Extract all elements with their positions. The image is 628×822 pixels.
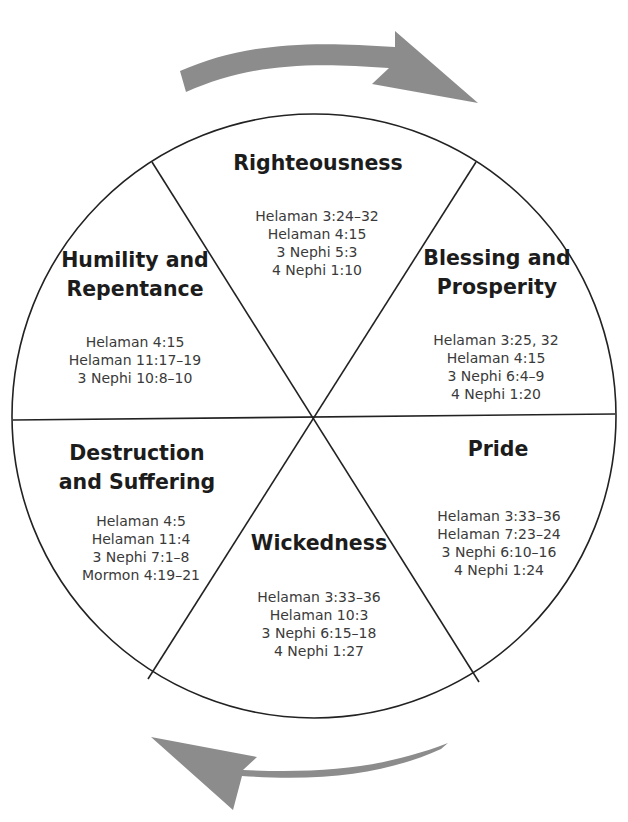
scripture-ref: Helaman 4:15 [268, 226, 367, 242]
segment-pride: Pride Helaman 3:33–36 Helaman 7:23–24 3 … [437, 437, 560, 578]
scripture-ref: Helaman 11:17–19 [69, 352, 201, 368]
scripture-ref: Helaman 4:5 [96, 513, 186, 529]
scripture-ref: Helaman 3:24–32 [255, 208, 378, 224]
segment-blessing-and-prosperity: Blessing and Prosperity Helaman 3:25, 32… [423, 246, 571, 402]
scripture-ref: 4 Nephi 1:10 [272, 262, 362, 278]
segment-title: Pride [468, 437, 529, 461]
segment-title: and Suffering [59, 470, 216, 494]
segment-title: Repentance [66, 277, 203, 301]
segment-righteousness: Righteousness Helaman 3:24–32 Helaman 4:… [233, 151, 403, 278]
segment-title: Righteousness [233, 151, 403, 175]
scripture-ref: 3 Nephi 6:15–18 [262, 625, 377, 641]
scripture-ref: Helaman 4:15 [447, 350, 546, 366]
scripture-ref: Helaman 3:25, 32 [433, 332, 558, 348]
scripture-ref: 3 Nephi 6:4–9 [448, 368, 545, 384]
segment-title: Wickedness [251, 531, 387, 555]
segment-title: Prosperity [437, 275, 557, 299]
scripture-ref: 4 Nephi 1:24 [454, 562, 544, 578]
scripture-ref: 3 Nephi 7:1–8 [93, 549, 190, 565]
top-cycle-arrow-icon [180, 31, 478, 103]
segment-destruction-and-suffering: Destruction and Suffering Helaman 4:5 He… [59, 441, 216, 583]
scripture-ref: 3 Nephi 10:8–10 [78, 370, 193, 386]
scripture-ref: Helaman 7:23–24 [437, 526, 560, 542]
segment-humility-and-repentance: Humility and Repentance Helaman 4:15 Hel… [61, 248, 209, 386]
scripture-ref: Mormon 4:19–21 [82, 567, 200, 583]
scripture-ref: 4 Nephi 1:20 [451, 386, 541, 402]
scripture-ref: 4 Nephi 1:27 [274, 643, 364, 659]
segment-wickedness: Wickedness Helaman 3:33–36 Helaman 10:3 … [251, 531, 387, 659]
scripture-ref: Helaman 3:33–36 [257, 589, 380, 605]
scripture-ref: 3 Nephi 6:10–16 [442, 544, 557, 560]
scripture-ref: Helaman 10:3 [270, 607, 369, 623]
segment-title: Humility and [61, 248, 209, 272]
cycle-diagram: Righteousness Helaman 3:24–32 Helaman 4:… [0, 0, 628, 822]
scripture-ref: Helaman 4:15 [86, 334, 185, 350]
segment-title: Destruction [69, 441, 204, 465]
segment-title: Blessing and [423, 246, 571, 270]
bottom-cycle-arrow-icon [151, 737, 448, 810]
scripture-ref: Helaman 11:4 [92, 531, 191, 547]
scripture-ref: Helaman 3:33–36 [437, 508, 560, 524]
scripture-ref: 3 Nephi 5:3 [276, 244, 357, 260]
